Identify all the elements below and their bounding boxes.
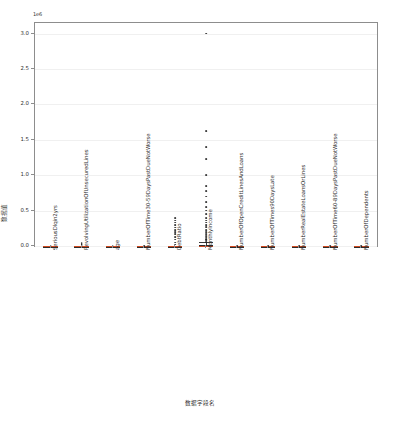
y-axis-offset-text: 1e6: [33, 11, 42, 17]
x-tick-mark: [81, 245, 82, 248]
y-tick-mark: [31, 103, 34, 104]
x-tick-label: NumberRealEstateLoansOrLines: [300, 165, 306, 250]
x-tick-label: DebtRatio: [176, 224, 182, 250]
x-tick-label: NumberOfTimes90DaysLate: [269, 175, 275, 250]
y-tick-mark: [31, 174, 34, 175]
x-tick-label: NumberOfOpenCreditLinesAndLoans: [238, 153, 244, 250]
x-tick-mark: [174, 245, 175, 248]
x-tick-label: SeriousDlqin2yrs: [52, 205, 58, 250]
x-tick-mark: [50, 245, 51, 248]
y-tick-label: 1.0: [8, 171, 29, 177]
y-tick-mark: [31, 139, 34, 140]
x-axis-title: 数据字段名: [0, 399, 399, 407]
x-tick-label: MonthlyIncome: [207, 209, 213, 250]
gridline: [35, 104, 377, 105]
y-tick-label: 2.5: [8, 65, 29, 71]
outlier-point: [205, 196, 207, 198]
x-tick-mark: [360, 245, 361, 248]
outlier-point: [205, 130, 207, 132]
x-tick-mark: [205, 245, 206, 248]
x-tick-mark: [329, 245, 330, 248]
x-tick-label: NumberOfTime60-89DaysPastDueNotWorse: [332, 133, 338, 250]
y-tick-mark: [31, 68, 34, 69]
y-tick-mark: [31, 245, 34, 246]
x-tick-mark: [143, 245, 144, 248]
x-tick-label: NumberOfDependents: [363, 190, 369, 250]
y-tick-mark: [31, 33, 34, 34]
outlier-point: [205, 201, 207, 203]
outlier-point: [205, 190, 207, 192]
outlier-point: [205, 158, 207, 160]
y-tick-label: 0.0: [8, 242, 29, 248]
x-tick-mark: [112, 245, 113, 248]
y-tick-label: 3.0: [8, 30, 29, 36]
x-tick-label: age: [114, 240, 120, 250]
outlier-point: [174, 220, 176, 222]
x-tick-label: NumberOfTime30-59DaysPastDueNotWorse: [145, 133, 151, 250]
y-tick-mark: [31, 210, 34, 211]
figure-canvas: 1e6 数据值 0.00.51.01.52.02.53.0 SeriousDlq…: [0, 0, 399, 425]
outlier-point: [174, 217, 176, 219]
y-tick-label: 0.5: [8, 207, 29, 213]
outlier-point: [205, 33, 207, 35]
outlier-point: [205, 206, 207, 208]
y-tick-label: 2.0: [8, 100, 29, 106]
x-tick-label: RevolvingUtilizationOfUnsecuredLines: [83, 150, 89, 250]
y-axis-title: 数据值: [0, 204, 8, 222]
outlier-point: [205, 146, 207, 148]
x-tick-mark: [236, 245, 237, 248]
outlier-point: [205, 185, 207, 187]
gridline: [35, 69, 377, 70]
outlier-point: [205, 174, 207, 176]
y-tick-label: 1.5: [8, 136, 29, 142]
gridline: [35, 140, 377, 141]
